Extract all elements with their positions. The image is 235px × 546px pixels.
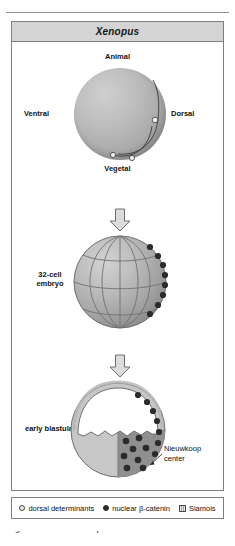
filled-circle-icon [103,505,109,511]
figure-title-bar: Xenopus [12,22,223,42]
panel-32cell-embryo: 32-cell embryo [12,232,223,352]
legend: dorsal determinants nuclear β-catenin Si… [11,497,224,519]
microtubule-track-inner [112,126,152,156]
figure-caption-text: Figure 1 The Dorsal displacement of dors… [8,531,225,533]
legend-item-dorsal-determinants: dorsal determinants [19,504,94,513]
figure-caption: Figure 1 The Dorsal displacement of dors… [8,531,227,546]
figure-stage: Animal Ventral Dorsal Vegetal [12,42,223,491]
legend-label: dorsal determinants [28,504,94,513]
embryo32-graphic [12,232,225,352]
legend-label: Siamois [189,504,216,513]
arrow-32cell-to-blastula [109,354,131,378]
legend-label: nuclear β-catenin [112,504,170,513]
legend-item-nuclear-beta-catenin: nuclear β-catenin [103,504,170,513]
oocyte-determinant-overlay [12,42,225,202]
shaded-square-icon [179,505,186,512]
legend-item-siamois: Siamois [179,504,216,513]
panel-early-blastula: early blastula Nieuwkoop center [12,378,223,490]
open-circle-icon [19,505,25,511]
panel-oocyte: Animal Ventral Dorsal Vegetal [12,42,223,202]
arrow-oocyte-to-32cell [109,208,131,232]
cropped-top-rule [6,12,229,13]
dorsal-determinant-marker [110,152,115,157]
blastula-graphic [12,378,225,490]
figure-panel: Xenopus Animal Ventral Dorsal Vegetal [11,21,224,491]
dorsal-determinant-marker [152,117,158,123]
microtubule-track-outer [118,80,159,154]
page-title: Xenopus [96,26,140,37]
dorsal-determinant-marker [129,155,134,160]
scan-top-margin [0,0,235,11]
figure-root: Xenopus Animal Ventral Dorsal Vegetal [0,0,235,546]
